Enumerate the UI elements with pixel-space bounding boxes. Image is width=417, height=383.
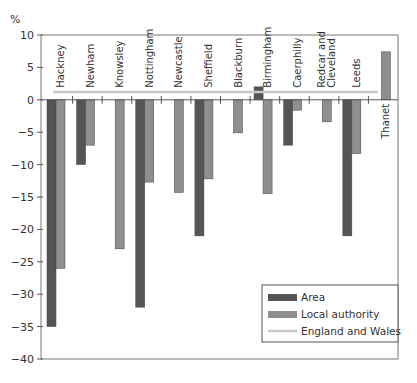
bar-area bbox=[136, 100, 145, 307]
bar-local-authority bbox=[204, 100, 213, 179]
legend-label-england-and-wales: England and Wales bbox=[301, 325, 401, 337]
legend-swatch-local-authority bbox=[268, 311, 297, 318]
category-label: Newcastle bbox=[173, 36, 184, 88]
legend-label-area: Area bbox=[301, 291, 325, 303]
legend: Area Local authority England and Wales bbox=[262, 285, 401, 342]
bar-area bbox=[77, 100, 86, 165]
y-tick-label: −25 bbox=[11, 256, 34, 269]
bar-area bbox=[47, 100, 56, 327]
category-label: Nottingham bbox=[144, 29, 155, 88]
legend-label-local-authority: Local authority bbox=[301, 308, 379, 320]
bar-area bbox=[195, 100, 204, 236]
y-tick-label: −10 bbox=[11, 159, 34, 172]
bar-area bbox=[343, 100, 352, 236]
y-axis-unit-label: % bbox=[10, 13, 20, 26]
bar-local-authority bbox=[234, 100, 243, 133]
bar-local-authority bbox=[322, 100, 331, 122]
category-label: Hackney bbox=[55, 44, 66, 87]
category-label: Newham bbox=[85, 44, 96, 88]
bar-area bbox=[284, 100, 293, 145]
category-labels: HackneyNewhamKnowsleyNottinghamNewcastle… bbox=[55, 27, 391, 140]
y-tick-label: 5 bbox=[27, 61, 34, 74]
y-tick-label: 0 bbox=[27, 94, 34, 107]
bar-local-authority bbox=[381, 52, 390, 100]
bar-local-authority bbox=[352, 100, 361, 154]
y-tick-label: −30 bbox=[11, 288, 34, 301]
bar-local-authority bbox=[174, 100, 183, 193]
bar-local-authority bbox=[145, 100, 154, 182]
y-tick-label: −5 bbox=[18, 126, 34, 139]
bar-local-authority bbox=[115, 100, 124, 249]
y-tick-label: −35 bbox=[11, 321, 34, 334]
category-label: Blackburn bbox=[233, 38, 244, 88]
bar-local-authority bbox=[56, 100, 65, 268]
bar-local-authority bbox=[263, 100, 272, 194]
y-axis: 1050−5−10−15−20−25−30−35−40 bbox=[11, 29, 43, 366]
category-label: Leeds bbox=[351, 59, 362, 88]
legend-swatch-area bbox=[268, 294, 297, 301]
category-label: Caerphilly bbox=[292, 37, 303, 87]
category-label: Cleveland bbox=[326, 38, 337, 88]
bar-local-authority bbox=[86, 100, 95, 145]
category-label: Birmingham bbox=[262, 27, 273, 88]
y-tick-label: −40 bbox=[11, 353, 34, 366]
y-tick-label: −15 bbox=[11, 191, 34, 204]
category-label: Sheffield bbox=[203, 44, 214, 88]
y-tick-label: −20 bbox=[11, 223, 34, 236]
y-tick-label: 10 bbox=[20, 29, 34, 42]
bar-chart: % 1050−5−10−15−20−25−30−35−40 HackneyNew… bbox=[0, 0, 417, 383]
category-label: Thanet bbox=[380, 104, 391, 140]
bar-local-authority bbox=[293, 100, 302, 110]
category-label: Knowsley bbox=[114, 40, 125, 87]
